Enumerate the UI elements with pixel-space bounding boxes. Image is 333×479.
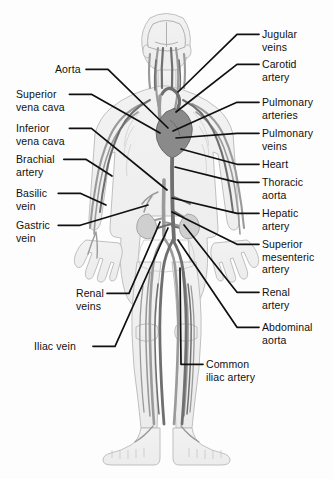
leader-line-jugular-veins <box>178 34 259 92</box>
leader-line-common-iliac-artery <box>180 268 203 364</box>
leader-line-pulmonary-veins <box>176 133 259 138</box>
callout-aorta: Aorta <box>55 63 81 76</box>
callout-jugular-veins: Jugular veins <box>262 28 297 53</box>
leader-line-iliac-vein <box>93 228 168 346</box>
callout-abdominal-aorta: Abdominal aorta <box>262 321 313 346</box>
leader-line-basilic-vein <box>58 193 106 205</box>
leader-line-thoracic-aorta <box>175 167 259 182</box>
leader-line-heart <box>181 149 259 164</box>
callout-heart: Heart <box>262 158 288 171</box>
callout-superior-mesenteric-artery: Superior mesenteric artery <box>262 238 314 276</box>
callout-pulmonary-veins: Pulmonary veins <box>262 127 313 152</box>
leader-line-superior-vena-cava <box>69 94 160 133</box>
leader-line-superior-mesenteric-artery <box>172 212 259 244</box>
leader-line-carotid-artery <box>176 64 259 112</box>
callout-hepatic-artery: Hepatic artery <box>262 207 298 232</box>
leader-line-renal-artery <box>184 225 259 292</box>
leader-line-pulmonary-arteries <box>173 102 259 131</box>
leader-line-hepatic-artery <box>172 198 259 213</box>
leader-line-abdominal-aorta <box>178 240 259 327</box>
callout-carotid-artery: Carotid artery <box>262 58 297 83</box>
callout-common-iliac-artery: Common iliac artery <box>206 358 255 383</box>
callout-inferior-vena-cava: Inferior vena cava <box>16 122 65 147</box>
leader-line-brachial-artery <box>64 159 112 176</box>
callout-superior-vena-cava: Superior vena cava <box>16 88 65 113</box>
callout-pulmonary-arteries: Pulmonary arteries <box>262 96 313 121</box>
callout-renal-veins: Renal veins <box>76 287 104 312</box>
callout-renal-artery: Renal artery <box>262 286 290 311</box>
callout-iliac-vein: Iliac vein <box>34 340 76 353</box>
callout-thoracic-aorta: Thoracic aorta <box>262 176 303 201</box>
leader-line-renal-veins <box>107 222 160 293</box>
callout-brachial-artery: Brachial artery <box>16 153 55 178</box>
anatomy-diagram: AortaSuperior vena cavaInferior vena cav… <box>0 0 333 479</box>
leader-line-gastric-vein <box>58 205 148 225</box>
callout-gastric-vein: Gastric vein <box>16 219 50 244</box>
callout-basilic-vein: Basilic vein <box>16 187 47 212</box>
